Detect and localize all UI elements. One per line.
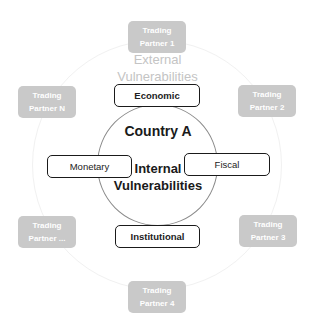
external-label-line2: Vulnerabilities [100, 68, 215, 85]
partner-label-line1: Trading [18, 219, 76, 232]
trading-partner-3: Trading Partner 3 [239, 215, 297, 247]
partner-label-line1: Trading [128, 24, 186, 37]
partner-label-line2: Partner 4 [128, 297, 186, 310]
partner-label-line2: Partner 2 [238, 101, 296, 114]
trading-partner-ellipsis: Trading Partner ... [18, 216, 76, 248]
partner-label-line2: Partner 3 [239, 231, 297, 244]
internal-label-line1: Internal [108, 160, 208, 177]
trading-partner-n: Trading Partner N [18, 86, 76, 118]
trading-partner-1: Trading Partner 1 [128, 21, 186, 53]
external-vulnerabilities-label: External Vulnerabilities [100, 51, 215, 85]
partner-label-line1: Trading [128, 284, 186, 297]
economic-box: Economic [114, 84, 200, 107]
trading-partner-2: Trading Partner 2 [238, 85, 296, 117]
internal-label-line2: Vulnerabilities [108, 177, 208, 194]
partner-label-line1: Trading [18, 89, 76, 102]
trading-partner-4: Trading Partner 4 [128, 281, 186, 313]
partner-label-line1: Trading [238, 88, 296, 101]
partner-label-line2: Partner 1 [128, 37, 186, 50]
partner-label-line1: Trading [239, 218, 297, 231]
internal-vulnerabilities-label: Internal Vulnerabilities [108, 160, 208, 194]
country-title: Country A [108, 123, 208, 139]
partner-label-line2: Partner N [18, 102, 76, 115]
external-label-line1: External [100, 51, 215, 68]
institutional-box: Institutional [115, 225, 200, 248]
partner-label-line2: Partner ... [18, 232, 76, 245]
